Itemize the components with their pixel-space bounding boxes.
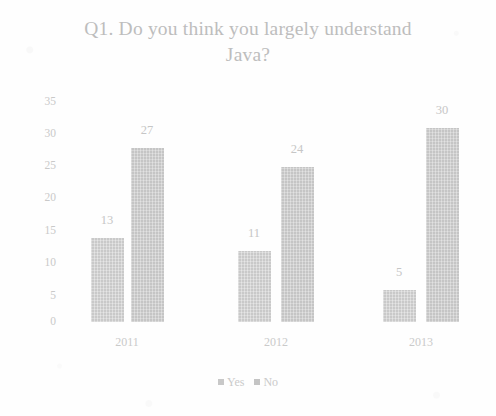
bar-rect bbox=[426, 128, 459, 322]
y-axis-tick-35: 35 bbox=[22, 95, 56, 107]
x-axis-label-2012: 2012 bbox=[236, 336, 316, 349]
bar-2011-no[interactable] bbox=[131, 148, 164, 322]
legend-item-yes[interactable]: Yes bbox=[218, 375, 244, 389]
bar-rect bbox=[91, 238, 124, 322]
bar-label-2011-yes: 13 bbox=[87, 214, 127, 227]
y-axis-tick-15: 15 bbox=[22, 224, 56, 236]
bar-2013-no[interactable] bbox=[426, 128, 459, 322]
y-axis-tick-10: 10 bbox=[22, 256, 56, 268]
bar-2011-yes[interactable] bbox=[91, 238, 124, 322]
bar-label-2012-no: 24 bbox=[277, 143, 317, 156]
x-axis-label-2013: 2013 bbox=[381, 336, 461, 349]
bar-2012-no[interactable] bbox=[281, 167, 314, 322]
chart-legend: YesNo bbox=[0, 375, 496, 389]
y-axis-tick-5: 5 bbox=[22, 289, 56, 301]
bar-label-2013-yes: 5 bbox=[379, 266, 419, 279]
y-axis-tick-25: 25 bbox=[22, 159, 56, 171]
bar-label-2012-yes: 11 bbox=[234, 227, 274, 240]
chart-page: Q1. Do you think you largely understand … bbox=[0, 0, 496, 416]
bar-label-2011-no: 27 bbox=[127, 124, 167, 137]
bar-rect bbox=[281, 167, 314, 322]
legend-item-no[interactable]: No bbox=[254, 375, 278, 389]
bar-2012-yes[interactable] bbox=[238, 251, 271, 322]
legend-label-yes: Yes bbox=[227, 375, 244, 389]
legend-label-no: No bbox=[263, 375, 278, 389]
plot-area: 35 30 25 20 15 10 5 0 13 27 2011 11 24 2… bbox=[0, 0, 496, 416]
legend-swatch-icon bbox=[254, 379, 260, 385]
bar-2013-yes[interactable] bbox=[383, 290, 416, 322]
legend-swatch-icon bbox=[218, 379, 224, 385]
bar-rect bbox=[238, 251, 271, 322]
bar-rect bbox=[131, 148, 164, 322]
bar-label-2013-no: 30 bbox=[422, 104, 462, 117]
x-axis-label-2011: 2011 bbox=[87, 336, 167, 349]
y-axis-tick-20: 20 bbox=[22, 191, 56, 203]
y-axis-tick-30: 30 bbox=[22, 127, 56, 139]
y-axis-tick-0: 0 bbox=[22, 315, 56, 327]
bar-rect bbox=[383, 290, 416, 322]
